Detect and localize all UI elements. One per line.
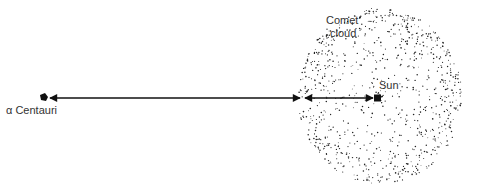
comet-cloud-label-line2: cloud — [330, 27, 356, 39]
alpha-centauri-star — [40, 93, 48, 101]
sun-marker — [374, 95, 381, 102]
alpha-centauri-label: α Centauri — [6, 104, 57, 116]
comet-cloud-diagram — [0, 0, 479, 190]
sun-label: Sun — [379, 79, 399, 91]
comet-cloud-label-line1: Comet — [326, 14, 358, 26]
